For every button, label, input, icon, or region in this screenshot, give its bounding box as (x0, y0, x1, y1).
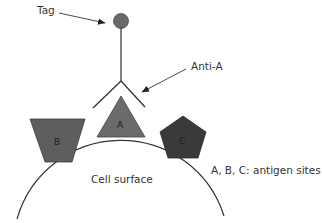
tag-arrow (59, 13, 105, 23)
antigen-c-label: C (179, 136, 185, 146)
triangle-icon (97, 96, 145, 137)
antigen-c: C (160, 116, 206, 158)
antibody-binding-diagram: Tag Anti-A A B C A, B, C: antigen sites … (0, 0, 322, 223)
tag-circle-icon (114, 14, 129, 29)
anti-a-label: Anti-A (191, 60, 223, 72)
antigen-a: A (97, 96, 145, 137)
cell-surface-label: Cell surface (91, 173, 153, 185)
antigen-b: B (30, 119, 85, 162)
antigen-b-label: B (54, 137, 60, 147)
tag-label: Tag (36, 4, 55, 16)
anti-a-arrow (142, 69, 186, 92)
antigen-a-label: A (117, 120, 124, 130)
antigen-legend: A, B, C: antigen sites (211, 164, 321, 176)
